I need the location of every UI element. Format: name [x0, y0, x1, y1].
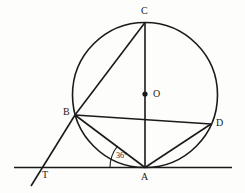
label-angle-36: 36°: [116, 152, 127, 160]
center-point-dot: [142, 91, 147, 96]
label-point-C: C: [141, 6, 148, 16]
segment-BC: [75, 23, 145, 116]
segment-BD: [75, 115, 211, 124]
segment-BA: [75, 115, 145, 168]
label-point-D: D: [216, 118, 223, 128]
label-point-B: B: [63, 107, 70, 117]
segment-BT-extension: [31, 115, 75, 186]
label-point-T: T: [42, 170, 48, 180]
label-point-O: O: [153, 89, 160, 99]
segment-AD: [145, 124, 211, 168]
diagram-canvas: [0, 0, 245, 193]
label-point-A: A: [141, 172, 148, 182]
geometry-diagram: C O B D A T 36°: [0, 0, 245, 193]
